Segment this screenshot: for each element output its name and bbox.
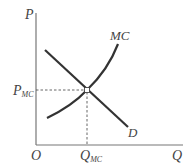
p-axis-label: P [24,7,34,22]
pmc-label: PMC [12,83,34,99]
qmc-label-main: Q [80,148,90,163]
equilibrium-point [85,88,90,93]
qmc-label: QMC [80,148,103,164]
origin-label: O [31,148,41,163]
qmc-label-sub: MC [89,155,103,164]
chart-canvas: P Q O MC D PMC QMC [0,0,194,168]
d-curve-label: D [127,125,138,140]
q-axis-label: Q [172,148,182,163]
mc-curve-label: MC [109,28,130,43]
pmc-label-main: P [12,83,22,98]
pmc-label-sub: MC [21,90,35,99]
